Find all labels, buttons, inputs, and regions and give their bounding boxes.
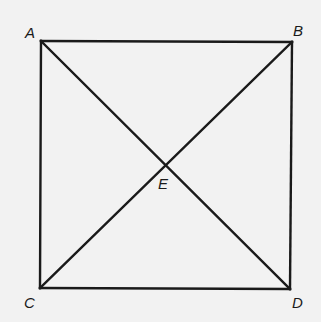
vertex-label-c: C <box>24 294 35 311</box>
vertex-label-d: D <box>292 294 303 311</box>
vertex-label-a: A <box>24 24 35 41</box>
intersection-label-e: E <box>158 175 169 192</box>
segment-dc <box>40 288 290 289</box>
segment-ab <box>41 41 292 42</box>
segment-ca <box>40 41 41 288</box>
square-diagram: A B C D E <box>0 0 321 322</box>
vertex-label-b: B <box>293 22 303 39</box>
segment-bd <box>290 42 292 289</box>
